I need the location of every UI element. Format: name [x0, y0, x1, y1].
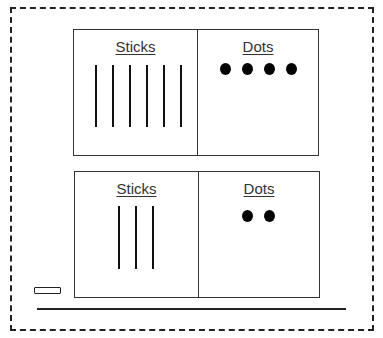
- bottom-sticks-cell: Sticks: [75, 172, 198, 297]
- dot: [264, 63, 275, 75]
- bottom-dots-cell: Dots: [198, 172, 319, 297]
- dot: [264, 210, 275, 222]
- sticks-header: Sticks: [116, 180, 156, 197]
- dot: [286, 63, 297, 75]
- top-dots-cell: Dots: [197, 30, 318, 155]
- stick: [163, 65, 165, 127]
- dots-header: Dots: [244, 180, 275, 197]
- dot: [242, 210, 253, 222]
- stick: [180, 65, 182, 127]
- bottom-table: Sticks Dots: [74, 171, 320, 298]
- top-table: Sticks Dots: [73, 29, 319, 156]
- sticks-header: Sticks: [115, 38, 155, 55]
- base-line: [37, 308, 346, 310]
- stick: [129, 65, 131, 127]
- stick: [135, 206, 137, 269]
- stick: [112, 65, 114, 127]
- dots-header: Dots: [243, 38, 274, 55]
- small-rectangle: [34, 287, 61, 294]
- stick: [95, 65, 97, 127]
- stick: [152, 206, 154, 269]
- dot: [242, 63, 253, 75]
- top-sticks-cell: Sticks: [74, 30, 197, 155]
- dot: [220, 63, 231, 75]
- stick: [118, 206, 120, 269]
- stick: [146, 65, 148, 127]
